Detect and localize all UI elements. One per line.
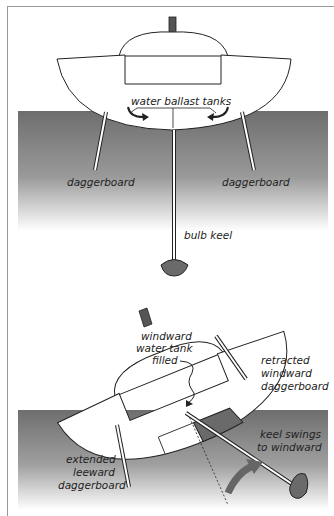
label-water-tank: water tank (136, 342, 193, 354)
label-retracted-daggerboard: daggerboard (261, 380, 329, 392)
label-daggerboard-left: daggerboard (67, 176, 135, 188)
label-extended-daggerboard: daggerboard (58, 479, 126, 491)
label-windward-1: windward (141, 330, 192, 342)
label-to-windward: to windward (257, 441, 322, 453)
label-leeward: leeward (73, 466, 115, 478)
label-keel-swings: keel swings (260, 428, 322, 440)
label-bulb-keel: bulb keel (184, 229, 232, 241)
label-filled: filled (152, 354, 178, 366)
keel-bulb (161, 260, 188, 277)
label-retracted: retracted (261, 354, 310, 366)
label-daggerboard-right: daggerboard (222, 176, 290, 188)
label-water-ballast-tanks: water ballast tanks (131, 95, 232, 107)
label-retracted-windward: windward (261, 367, 312, 379)
label-extended: extended (66, 453, 116, 465)
cabin-top (119, 32, 228, 56)
mast-bottom (139, 308, 152, 327)
mast-top (169, 17, 176, 33)
